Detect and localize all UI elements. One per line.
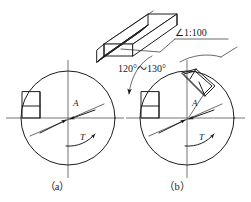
chamfer-hatch-b [184,71,212,94]
keyway-boss-b [141,92,159,118]
technical-drawing-figure: ∠1:100 120°～130° A [0,0,251,202]
force-arrow-a2 [40,120,66,133]
caption-b: （b） [164,181,189,192]
torque-label-a: T [80,132,86,142]
caption-a: （a） [45,181,70,192]
drawing-canvas: ∠1:100 120°～130° A [0,0,251,202]
keyway-boss-a [22,92,40,118]
angle-pointer-line [221,47,237,57]
key-seat-plane-a [30,104,104,136]
chamfer-angle-label: 120°～130° [118,63,166,74]
force-label-a: A [72,98,79,108]
shaft-section-b: A T [126,60,245,178]
angle-arc-top [180,55,221,62]
shaft-section-a: A T [6,60,124,178]
taper-ratio-label: ∠1:100 [175,27,207,38]
angle-leader-curve [129,56,152,94]
force-arrow-b2 [159,120,185,133]
tapered-key-3d-view [97,11,177,62]
torque-label-b: T [199,132,205,142]
force-label-b: A [191,98,198,108]
